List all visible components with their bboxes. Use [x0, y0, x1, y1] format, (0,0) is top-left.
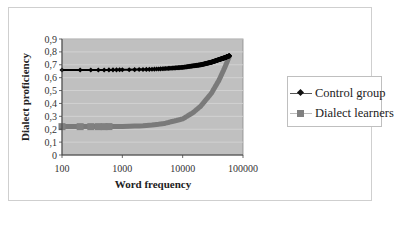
x-axis-label: Word frequency: [115, 178, 192, 190]
y-tick-label: 0: [52, 150, 57, 161]
y-tick-label: 0,2: [45, 124, 58, 135]
y-tick-label: 0,6: [45, 72, 58, 83]
y-tick-label: 0,4: [45, 98, 58, 109]
y-tick-label: 0,8: [45, 46, 58, 57]
x-tick-label: 1000: [112, 163, 132, 174]
legend-label: Control group: [315, 86, 385, 101]
legend-label: Dialect learners: [315, 106, 394, 121]
x-axis-tick-labels: 100100010000100000: [55, 163, 259, 174]
y-tick-label: 0,1: [45, 137, 58, 148]
legend-line-icon: [290, 113, 312, 114]
y-tick-label: 0,7: [45, 59, 58, 70]
y-tick-label: 0,5: [45, 85, 58, 96]
y-axis-label: Dialect proficiency: [19, 52, 31, 141]
legend: Control group Dialect learners: [287, 76, 382, 127]
y-tick-label: 0,3: [45, 111, 58, 122]
plot-area: [62, 39, 243, 155]
legend-line-icon: [290, 93, 312, 94]
x-tick-label: 100: [55, 163, 70, 174]
legend-item-dialect-learners: Dialect learners: [288, 105, 394, 121]
diamond-marker-icon: [297, 88, 304, 95]
x-tick-label: 10000: [170, 163, 195, 174]
y-axis-tick-labels: 00,10,20,30,40,50,60,70,80,9: [45, 34, 58, 161]
square-marker-icon: [297, 110, 304, 117]
x-tick-label: 100000: [228, 163, 258, 174]
y-tick-label: 0,9: [45, 34, 58, 45]
legend-item-control-group: Control group: [288, 85, 385, 101]
